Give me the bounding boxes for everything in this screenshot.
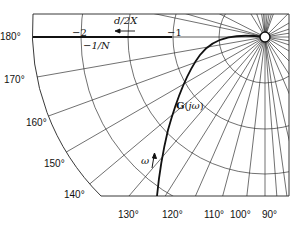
angle-label-170: 170° bbox=[4, 75, 25, 85]
angle-label-100: 100° bbox=[230, 210, 251, 220]
angle-label-120: 120° bbox=[162, 210, 183, 220]
omega-arrow bbox=[152, 153, 157, 168]
angle-label-160: 160° bbox=[26, 118, 47, 128]
angle-label-140: 140° bbox=[64, 190, 85, 200]
radial-lines bbox=[0, 0, 301, 227]
angle-label-150: 150° bbox=[44, 159, 65, 169]
label-minus-one: −1 bbox=[167, 28, 182, 38]
label-minus-two: −2 bbox=[72, 28, 87, 38]
origin-marker bbox=[260, 32, 270, 42]
label-describing-function: −1/N bbox=[83, 41, 110, 51]
angle-label-90: 90° bbox=[262, 210, 277, 220]
angle-label-180: 180° bbox=[0, 32, 21, 42]
label-d-over-2x: d/2X bbox=[114, 16, 137, 26]
angle-label-130: 130° bbox=[118, 210, 139, 220]
label-transfer-function: G(jω) bbox=[176, 101, 204, 111]
label-omega: ω bbox=[141, 156, 149, 166]
d2x-arrow bbox=[115, 29, 135, 33]
transfer-function-curve bbox=[157, 36, 264, 196]
polar-plot bbox=[0, 0, 301, 227]
phase-lines bbox=[0, 37, 265, 227]
angle-label-110: 110° bbox=[204, 210, 224, 220]
grid bbox=[0, 0, 301, 227]
